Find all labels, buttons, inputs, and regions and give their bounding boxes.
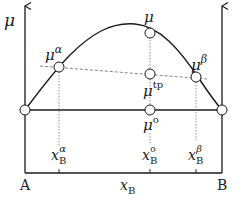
chemical-potential-diagram: μ μα μ μβ μtp μo xBα xBo xBβ A B xB	[0, 0, 242, 201]
label-mu-alpha: μα	[45, 43, 63, 64]
label-xB-alpha: xBα	[51, 143, 66, 166]
point-mu	[145, 28, 155, 38]
label-component-B: B	[217, 177, 227, 193]
label-mu-o: μo	[143, 114, 159, 134]
label-mu-tp: μtp	[143, 79, 163, 100]
point-left-end	[20, 105, 30, 115]
label-component-A: A	[19, 177, 31, 193]
x-axis-label: xB	[120, 177, 135, 196]
y-axis-label: μ	[4, 10, 15, 30]
point-mu-alpha	[54, 62, 64, 72]
point-mu-tp	[145, 69, 155, 79]
label-mu: μ	[144, 8, 154, 26]
label-xB-o: xBo	[142, 144, 157, 166]
common-tangent-line	[40, 66, 207, 79]
label-xB-beta: xBβ	[188, 143, 203, 166]
point-right-end	[217, 105, 227, 115]
label-mu-beta: μβ	[191, 53, 207, 74]
